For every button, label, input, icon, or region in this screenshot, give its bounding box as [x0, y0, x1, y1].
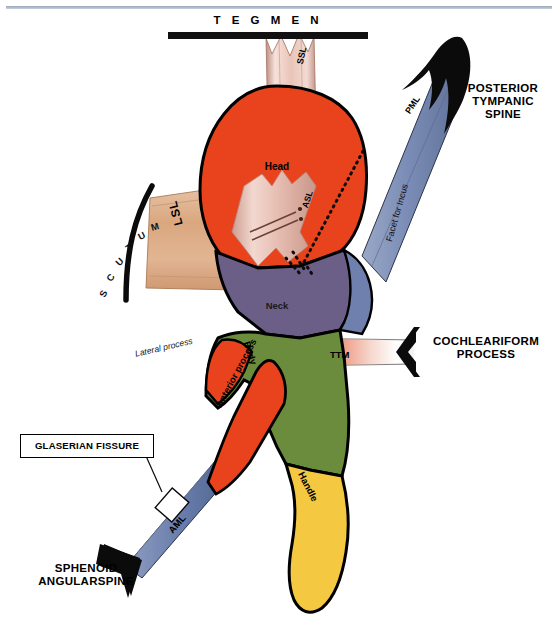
- scutum-letter-3: U: [113, 255, 126, 268]
- posterior-tympanic-spine-label: POSTERIOR TYMPANIC SPINE: [455, 82, 551, 121]
- glaserian-leader-line: [146, 456, 162, 492]
- glaserian-fissure-callout-box: GLASERIAN FISSURE: [20, 434, 154, 458]
- scutum-label: S C U T U M: [96, 188, 168, 304]
- scutum-letter-5: U: [136, 229, 147, 242]
- cochleariform-process-arrow: [396, 327, 420, 377]
- head-label: Head: [265, 161, 289, 172]
- cochp-line-1: COCHLEARIFORM: [424, 335, 548, 348]
- sphenoid-line-1: SPHENOID: [16, 562, 156, 575]
- cochp-line-2: PROCESS: [424, 348, 548, 361]
- pts-line-1: POSTERIOR: [455, 82, 551, 95]
- figure-canvas: T E G M E N POSTERIOR TYMPANIC SPINE COC…: [0, 0, 554, 640]
- cochleariform-process-label: COCHLEARIFORM PROCESS: [424, 335, 548, 361]
- pts-line-2: TYMPANIC: [455, 95, 551, 108]
- scutum-letter-4: T: [123, 241, 134, 253]
- scutum-letter-1: S: [97, 288, 110, 299]
- glaserian-fissure-label: GLASERIAN FISSURE: [21, 435, 153, 457]
- pts-line-3: SPINE: [455, 108, 551, 121]
- neck-label: Neck: [266, 300, 289, 311]
- tegmen-bar: [168, 32, 368, 39]
- sphenoid-line-2: ANGULARSPINE: [16, 575, 156, 588]
- ttm-label: TTM: [330, 349, 350, 360]
- tegmen-label: T E G M E N: [168, 14, 368, 26]
- sphenoid-angularspine-label: SPHENOID ANGULARSPINE: [16, 562, 156, 588]
- scutum-letter-2: C: [104, 272, 117, 284]
- scutum-letter-6: M: [150, 220, 161, 233]
